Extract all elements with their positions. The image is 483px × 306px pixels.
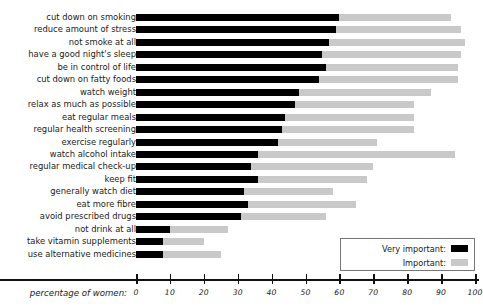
- bar-segment-important: [241, 213, 326, 220]
- bar-segment-important: [326, 64, 458, 71]
- stacked-bar: [136, 201, 356, 208]
- legend-item-very-important: Very important:: [382, 243, 468, 254]
- x-axis-tick: [441, 274, 443, 284]
- bar-row-label: not drink at all: [0, 224, 136, 235]
- legend-label-important: Important:: [403, 258, 446, 268]
- bar-segment-very-important: [136, 14, 339, 21]
- stacked-bar: [136, 251, 221, 258]
- table-row: eat regular meals: [0, 112, 479, 123]
- stacked-bar: [136, 213, 326, 220]
- x-axis-tick-label: 20: [199, 288, 209, 297]
- bar-segment-important: [278, 139, 376, 146]
- bar-row-label: eat regular meals: [0, 112, 136, 123]
- bar-segment-very-important: [136, 213, 241, 220]
- stacked-bar: [136, 76, 458, 83]
- bar-segment-very-important: [136, 64, 326, 71]
- table-row: not drink at all: [0, 224, 479, 235]
- table-row: cut down on smoking: [0, 12, 479, 23]
- bar-segment-very-important: [136, 39, 329, 46]
- table-row: keep fit: [0, 174, 479, 185]
- bar-row-label: watch alcohol intake: [0, 149, 136, 160]
- x-axis-tick: [238, 274, 240, 284]
- x-axis-tick: [136, 274, 138, 284]
- table-row: regular health screening: [0, 124, 479, 135]
- bar-row-label: use alternative medicines: [0, 249, 136, 260]
- stacked-bar: [136, 126, 414, 133]
- bar-row-label: generally watch diet: [0, 186, 136, 197]
- bar-segment-important: [319, 76, 458, 83]
- bar-segment-very-important: [136, 176, 258, 183]
- x-axis-tick: [373, 274, 375, 284]
- legend-swatch-very-important: [451, 245, 468, 252]
- x-axis-tick: [272, 274, 274, 284]
- stacked-bar: [136, 51, 461, 58]
- bar-segment-important: [258, 151, 455, 158]
- bar-segment-important: [258, 176, 366, 183]
- bar-segment-very-important: [136, 76, 319, 83]
- bar-row-label: cut down on fatty foods: [0, 74, 136, 85]
- bar-row-label: be in control of life: [0, 62, 136, 73]
- bar-segment-important: [329, 39, 465, 46]
- bar-row-label: keep fit: [0, 174, 136, 185]
- x-axis-tick-label: 100: [467, 288, 482, 297]
- bar-row-label: have a good night's sleep: [0, 49, 136, 60]
- bar-segment-very-important: [136, 101, 295, 108]
- bar-segment-important: [322, 51, 461, 58]
- table-row: not smoke at all: [0, 37, 479, 48]
- bar-segment-important: [336, 26, 461, 33]
- chart-legend: Very important: Important:: [340, 238, 475, 271]
- x-axis-tick-label: 80: [402, 288, 412, 297]
- table-row: watch weight: [0, 87, 479, 98]
- x-axis-tick: [407, 274, 409, 284]
- stacked-bar: [136, 226, 228, 233]
- bar-segment-very-important: [136, 201, 248, 208]
- bar-segment-very-important: [136, 126, 282, 133]
- bar-row-label: not smoke at all: [0, 37, 136, 48]
- x-axis-tick-label: 40: [267, 288, 277, 297]
- bar-row-label: exercise regularly: [0, 137, 136, 148]
- bar-segment-important: [163, 251, 221, 258]
- bar-segment-important: [282, 126, 414, 133]
- bar-row-label: cut down on smoking: [0, 12, 136, 23]
- stacked-bar: [136, 114, 414, 121]
- stacked-bar: [136, 26, 461, 33]
- bar-segment-important: [248, 201, 356, 208]
- x-axis-tick-label: 50: [300, 288, 310, 297]
- x-axis-tick-label: 60: [334, 288, 344, 297]
- bar-row-label: regular medical check-up: [0, 161, 136, 172]
- x-axis-title: percentage of women:: [30, 288, 127, 298]
- bar-row-label: relax as much as possible: [0, 99, 136, 110]
- legend-swatch-important: [451, 259, 468, 266]
- bar-segment-very-important: [136, 89, 299, 96]
- stacked-bar: [136, 188, 333, 195]
- stacked-bar: [136, 101, 414, 108]
- bar-segment-very-important: [136, 139, 278, 146]
- x-axis-tick: [306, 274, 308, 284]
- bar-segment-important: [339, 14, 451, 21]
- stacked-bar: [136, 176, 367, 183]
- bar-segment-very-important: [136, 163, 251, 170]
- stacked-bar: [136, 64, 458, 71]
- x-axis-tick-label: 10: [165, 288, 175, 297]
- stacked-bar: [136, 238, 204, 245]
- stacked-bar: [136, 14, 451, 21]
- bar-segment-very-important: [136, 251, 163, 258]
- x-axis-tick-label: 30: [233, 288, 243, 297]
- bar-segment-very-important: [136, 238, 163, 245]
- table-row: avoid prescribed drugs: [0, 211, 479, 222]
- table-row: be in control of life: [0, 62, 479, 73]
- bar-segment-important: [295, 101, 414, 108]
- legend-label-very-important: Very important:: [382, 244, 446, 254]
- bar-segment-very-important: [136, 188, 244, 195]
- bar-segment-very-important: [136, 26, 336, 33]
- bar-segment-very-important: [136, 151, 258, 158]
- bar-segment-important: [244, 188, 332, 195]
- bar-row-label: eat more fibre: [0, 199, 136, 210]
- x-axis-tick-label: 70: [368, 288, 378, 297]
- bar-row-label: regular health screening: [0, 124, 136, 135]
- x-axis-tick-label: 0: [133, 288, 138, 297]
- table-row: cut down on fatty foods: [0, 74, 479, 85]
- x-axis-tick: [339, 274, 341, 284]
- table-row: relax as much as possible: [0, 99, 479, 110]
